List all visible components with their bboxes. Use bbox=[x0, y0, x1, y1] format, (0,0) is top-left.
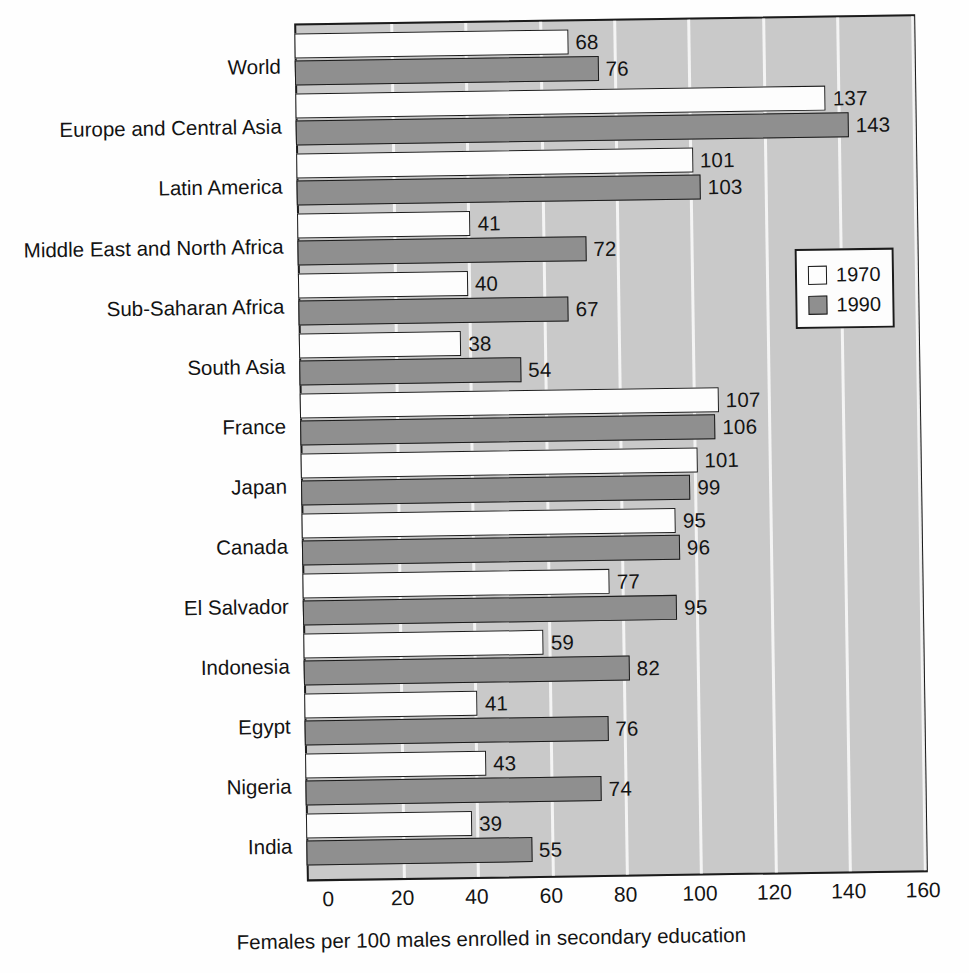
bar-value-label: 68 bbox=[575, 32, 599, 53]
bar-1970 bbox=[294, 29, 568, 58]
bar-1990 bbox=[301, 475, 690, 506]
bar-1970 bbox=[305, 751, 486, 779]
bar-1990 bbox=[305, 716, 609, 746]
bar-group: 6876 bbox=[294, 24, 916, 85]
category-label: India bbox=[5, 837, 292, 862]
bar-group: 3955 bbox=[306, 804, 928, 865]
chart-legend: 1970 1990 bbox=[795, 248, 895, 329]
bar-1970 bbox=[303, 630, 544, 659]
category-label: France bbox=[0, 417, 286, 442]
bar-value-label: 76 bbox=[605, 59, 629, 80]
category-label: Sub-Saharan Africa bbox=[0, 297, 285, 322]
bar-value-label: 76 bbox=[615, 718, 639, 739]
category-label: South Asia bbox=[0, 357, 285, 382]
bar-1990 bbox=[300, 414, 716, 445]
bar-value-label: 95 bbox=[683, 510, 707, 531]
legend-label-1970: 1970 bbox=[836, 264, 881, 285]
x-tick-40: 40 bbox=[465, 886, 489, 907]
bar-value-label: 41 bbox=[478, 213, 502, 234]
category-labels: WorldEurope and Central AsiaLatin Americ… bbox=[0, 0, 962, 9]
bar-1970 bbox=[299, 331, 462, 358]
bar-1990 bbox=[297, 236, 586, 265]
category-label: Egypt bbox=[4, 717, 291, 742]
bar-1990 bbox=[298, 296, 568, 325]
bar-1970 bbox=[301, 508, 676, 539]
bar-1990 bbox=[305, 776, 602, 805]
bar-value-label: 40 bbox=[475, 273, 499, 294]
bar-value-label: 82 bbox=[637, 658, 661, 679]
bar-1990 bbox=[299, 357, 521, 385]
bar-value-label: 72 bbox=[593, 239, 617, 260]
legend-swatch-1970 bbox=[808, 265, 827, 284]
bar-1990 bbox=[306, 837, 532, 865]
x-tick-20: 20 bbox=[391, 887, 415, 908]
bar-value-label: 43 bbox=[493, 753, 517, 774]
category-label: Latin America bbox=[0, 177, 283, 202]
chart-figure: 6876137143101103417240673854107106101999… bbox=[0, 0, 969, 973]
bar-value-label: 101 bbox=[700, 150, 735, 171]
category-label: Middle East and North Africa bbox=[0, 237, 284, 262]
bar-1970 bbox=[298, 271, 468, 299]
bar-1970 bbox=[306, 811, 472, 838]
bar-group: 9596 bbox=[301, 504, 923, 565]
bar-value-label: 95 bbox=[684, 597, 708, 618]
category-label: Europe and Central Asia bbox=[0, 117, 282, 142]
bar-group: 101103 bbox=[296, 144, 918, 205]
bar-value-label: 38 bbox=[468, 334, 492, 355]
bar-1990 bbox=[303, 595, 678, 626]
bar-value-label: 41 bbox=[485, 693, 509, 714]
bar-1990 bbox=[302, 535, 680, 566]
bar-value-label: 55 bbox=[539, 840, 563, 861]
category-label: Japan bbox=[0, 477, 287, 502]
bar-value-label: 101 bbox=[704, 450, 739, 471]
x-tick-60: 60 bbox=[539, 885, 563, 906]
x-tick-140: 140 bbox=[831, 880, 866, 902]
bar-value-label: 137 bbox=[833, 88, 868, 109]
x-axis-ticks: 020406080100120140160 bbox=[6, 878, 969, 922]
category-label: Nigeria bbox=[4, 777, 291, 802]
bar-1970 bbox=[300, 387, 719, 418]
category-label: World bbox=[0, 57, 281, 82]
legend-swatch-1990 bbox=[808, 295, 827, 314]
bar-1970 bbox=[296, 148, 693, 179]
bar-group: 137143 bbox=[295, 84, 917, 145]
legend-item-1970: 1970 bbox=[808, 259, 892, 290]
x-tick-0: 0 bbox=[322, 888, 334, 909]
category-label: Indonesia bbox=[3, 657, 290, 682]
bar-value-label: 106 bbox=[722, 417, 757, 438]
category-label: El Salvador bbox=[2, 597, 289, 622]
bar-value-label: 59 bbox=[551, 632, 575, 653]
bar-value-label: 96 bbox=[687, 537, 711, 558]
bar-1990 bbox=[296, 112, 849, 145]
bar-group: 4374 bbox=[305, 744, 927, 805]
bar-group: 4176 bbox=[304, 684, 926, 745]
bars-layer: 6876137143101103417240673854107106101999… bbox=[294, 14, 928, 881]
legend-item-1990: 1990 bbox=[808, 289, 892, 320]
bar-value-label: 67 bbox=[575, 299, 599, 320]
x-axis-title: Females per 100 males enrolled in second… bbox=[7, 919, 969, 957]
x-tick-80: 80 bbox=[614, 883, 638, 904]
bar-1970 bbox=[302, 569, 610, 599]
x-tick-120: 120 bbox=[757, 881, 792, 903]
bar-value-label: 107 bbox=[726, 390, 761, 411]
bar-1990 bbox=[295, 56, 599, 86]
bar-value-label: 77 bbox=[617, 571, 641, 592]
bar-value-label: 54 bbox=[528, 360, 552, 381]
bar-1970 bbox=[301, 448, 698, 479]
category-label: Canada bbox=[1, 537, 288, 562]
bar-1970 bbox=[297, 211, 471, 239]
bar-value-label: 143 bbox=[855, 115, 890, 136]
bar-value-label: 39 bbox=[479, 813, 503, 834]
bar-1990 bbox=[297, 174, 701, 205]
legend-label-1990: 1990 bbox=[836, 294, 881, 315]
bar-group: 107106 bbox=[300, 384, 922, 445]
bar-group: 7795 bbox=[302, 564, 924, 625]
bar-1970 bbox=[304, 691, 478, 719]
bar-value-label: 74 bbox=[609, 779, 633, 800]
x-tick-160: 160 bbox=[905, 879, 940, 901]
bar-group: 10199 bbox=[301, 444, 923, 505]
bar-1990 bbox=[304, 656, 630, 686]
bar-group: 3854 bbox=[299, 324, 921, 385]
x-tick-100: 100 bbox=[682, 882, 717, 904]
bar-value-label: 99 bbox=[697, 477, 721, 498]
